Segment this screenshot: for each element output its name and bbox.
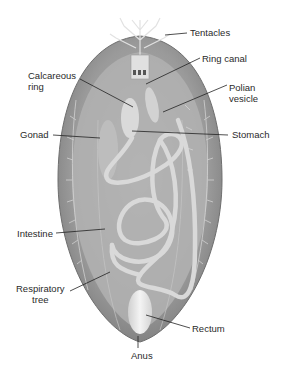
rectum-shape xyxy=(128,290,152,334)
label-ring-canal: Ring canal xyxy=(202,53,247,64)
label-rectum: Rectum xyxy=(192,323,225,334)
label-tentacles: Tentacles xyxy=(190,27,230,38)
label-stomach: Stomach xyxy=(232,129,270,140)
label-respiratory-tree: Respiratory tree xyxy=(16,283,65,305)
stomach-shape xyxy=(121,98,139,138)
label-calcareous-ring: Calcareous ring xyxy=(28,70,76,92)
label-anus: Anus xyxy=(131,350,153,361)
calcareous-ring-shape xyxy=(131,55,149,79)
label-intestine: Intestine xyxy=(17,228,53,239)
label-polian-vesicle: Polian vesicle xyxy=(229,82,258,104)
label-gonad: Gonad xyxy=(20,129,49,140)
